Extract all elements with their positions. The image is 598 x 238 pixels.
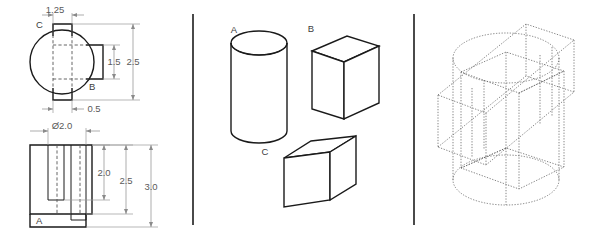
front-view-left-slot (48, 145, 64, 200)
assembly-wireframe (438, 24, 574, 205)
top-view: C B 1.25 1.5 (30, 4, 140, 114)
arrow-dia-left (43, 129, 48, 133)
part-c-slab: C (262, 136, 356, 207)
dim-2-0: 2.0 (97, 167, 110, 178)
arrow-20-bot (102, 195, 106, 200)
front-view-body (30, 145, 92, 214)
front-view-right-slot (71, 145, 86, 220)
dim-2-5: 2.5 (126, 56, 139, 67)
arrow-125-right (72, 13, 77, 17)
top-view-circle (30, 30, 94, 94)
dim-1-5: 1.5 (107, 56, 120, 67)
slab-front-face (284, 152, 330, 207)
arrow-25b-bot (124, 209, 128, 214)
dim-dia-2-0: Ø2.0 (52, 120, 73, 131)
arrow-30-bot (149, 222, 153, 227)
component-parts-panel: A B C (193, 0, 414, 238)
label-a: A (36, 215, 43, 226)
label-c: C (36, 19, 43, 30)
label-b: B (89, 81, 95, 92)
orthographic-views-panel: C B 1.25 1.5 (0, 0, 193, 238)
arrow-15-bot (112, 74, 116, 79)
arrow-05-left (48, 107, 53, 111)
part-a-label: A (231, 24, 238, 35)
arrow-05-right (72, 107, 77, 111)
assembly-wireframe-panel (414, 0, 598, 238)
cylinder-inner-arc (231, 43, 287, 55)
front-view: A Ø2.0 2.0 (30, 120, 158, 227)
arrow-25b-top (124, 145, 128, 150)
arrow-25-bot (131, 95, 135, 100)
arrow-15-top (112, 45, 116, 50)
cylinder-bottom-arc (231, 131, 287, 143)
arrow-25-top (131, 24, 135, 29)
part-b-label: B (308, 23, 314, 34)
arrow-dia-right (86, 129, 91, 133)
arrow-20-top (102, 145, 106, 150)
dim-1-25: 1.25 (46, 4, 65, 15)
part-c-label: C (262, 146, 269, 157)
prism-front-face (312, 51, 344, 119)
part-b-prism: B (308, 23, 379, 119)
dim-2-5b: 2.5 (119, 175, 132, 186)
part-a-cylinder: A (231, 24, 287, 143)
drawing-sheet: C B 1.25 1.5 (0, 0, 598, 238)
assembly-prism-bottom (461, 148, 564, 189)
arrow-30-top (149, 145, 153, 150)
dim-3-0: 3.0 (144, 181, 157, 192)
dim-0-5: 0.5 (87, 103, 100, 114)
